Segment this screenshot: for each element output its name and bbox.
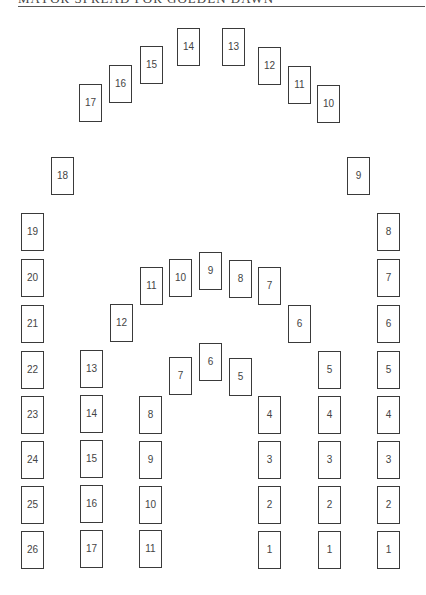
card-number-label: 1 <box>386 545 392 555</box>
card-position-inner-arch-8: 8 <box>139 396 162 434</box>
card-number-label: 12 <box>264 61 275 71</box>
card-position-outer-right-6: 6 <box>377 305 400 343</box>
card-position-middle-arch-17: 17 <box>80 530 103 568</box>
card-position-middle-arch-12: 12 <box>110 304 133 342</box>
card-position-outer-left-25: 25 <box>21 486 44 524</box>
card-position-outer-left-23: 23 <box>21 396 44 434</box>
card-position-inner-arch-6: 6 <box>199 343 222 381</box>
card-number-label: 1 <box>267 545 273 555</box>
card-number-label: 6 <box>386 319 392 329</box>
card-number-label: 5 <box>238 372 244 382</box>
card-number-label: 7 <box>178 371 184 381</box>
card-number-label: 19 <box>27 227 38 237</box>
card-position-middle-arch-5: 5 <box>318 351 341 389</box>
card-number-label: 4 <box>267 410 273 420</box>
card-position-upper-arch-17: 17 <box>79 84 102 122</box>
card-position-outer-right-5: 5 <box>377 351 400 389</box>
card-number-label: 3 <box>267 455 273 465</box>
card-number-label: 25 <box>27 500 38 510</box>
card-number-label: 4 <box>386 410 392 420</box>
card-number-label: 13 <box>228 42 239 52</box>
card-number-label: 10 <box>175 273 186 283</box>
card-position-middle-arch-14: 14 <box>80 395 103 433</box>
card-number-label: 14 <box>183 42 194 52</box>
card-number-label: 2 <box>327 500 333 510</box>
card-position-outer-left-19: 19 <box>21 213 44 251</box>
card-number-label: 2 <box>267 500 273 510</box>
card-number-label: 8 <box>238 274 244 284</box>
card-number-label: 12 <box>116 318 127 328</box>
card-position-middle-arch-6: 6 <box>288 305 311 343</box>
card-number-label: 3 <box>386 455 392 465</box>
card-position-outer-right-9: 9 <box>347 157 370 195</box>
card-number-label: 18 <box>57 171 68 181</box>
card-position-outer-right-4: 4 <box>377 396 400 434</box>
card-position-upper-arch-13: 13 <box>222 28 245 66</box>
card-position-middle-arch-2: 2 <box>318 486 341 524</box>
card-position-middle-arch-9: 9 <box>199 252 222 290</box>
card-position-inner-arch-7: 7 <box>169 357 192 395</box>
card-position-outer-right-2: 2 <box>377 486 400 524</box>
card-position-upper-arch-12: 12 <box>258 47 281 85</box>
card-number-label: 10 <box>145 500 156 510</box>
card-position-inner-arch-9: 9 <box>139 441 162 479</box>
page-header-title: MAYOR SPREAD FOR GOLDEN DAWN <box>18 0 278 5</box>
card-position-outer-left-24: 24 <box>21 441 44 479</box>
card-number-label: 9 <box>356 171 362 181</box>
card-number-label: 5 <box>386 365 392 375</box>
card-number-label: 23 <box>27 410 38 420</box>
card-number-label: 24 <box>27 455 38 465</box>
card-number-label: 5 <box>327 365 333 375</box>
card-number-label: 8 <box>386 227 392 237</box>
card-number-label: 16 <box>86 499 97 509</box>
card-position-outer-left-20: 20 <box>21 259 44 297</box>
card-position-upper-arch-14: 14 <box>177 28 200 66</box>
card-position-outer-left-21: 21 <box>21 305 44 343</box>
card-number-label: 14 <box>86 409 97 419</box>
card-number-label: 15 <box>86 454 97 464</box>
card-position-upper-arch-10: 10 <box>317 85 340 123</box>
card-position-outer-left-22: 22 <box>21 351 44 389</box>
card-number-label: 26 <box>27 545 38 555</box>
card-position-middle-arch-4: 4 <box>318 396 341 434</box>
card-position-middle-arch-7: 7 <box>258 267 281 305</box>
card-position-inner-arch-1: 1 <box>258 531 281 569</box>
card-number-label: 10 <box>323 99 334 109</box>
card-position-middle-arch-10: 10 <box>169 259 192 297</box>
card-number-label: 2 <box>386 500 392 510</box>
card-position-outer-right-7: 7 <box>377 259 400 297</box>
card-number-label: 21 <box>27 319 38 329</box>
card-number-label: 11 <box>294 80 304 90</box>
card-position-middle-arch-3: 3 <box>318 441 341 479</box>
card-number-label: 17 <box>86 544 97 554</box>
card-position-middle-arch-8: 8 <box>229 260 252 298</box>
card-number-label: 15 <box>146 60 157 70</box>
card-number-label: 13 <box>86 364 97 374</box>
card-number-label: 6 <box>297 319 303 329</box>
card-position-middle-arch-1: 1 <box>318 531 341 569</box>
card-position-inner-arch-5: 5 <box>229 358 252 396</box>
card-number-label: 11 <box>145 544 155 554</box>
header-divider <box>18 6 425 7</box>
card-position-middle-arch-15: 15 <box>80 440 103 478</box>
card-number-label: 20 <box>27 273 38 283</box>
card-position-upper-arch-11: 11 <box>288 66 311 104</box>
card-position-inner-arch-10: 10 <box>139 486 162 524</box>
card-position-outer-left-26: 26 <box>21 531 44 569</box>
card-number-label: 7 <box>267 281 273 291</box>
card-position-inner-arch-2: 2 <box>258 486 281 524</box>
card-position-upper-arch-16: 16 <box>109 65 132 103</box>
card-position-middle-arch-11: 11 <box>140 267 163 305</box>
card-number-label: 9 <box>208 266 214 276</box>
card-position-outer-left-18: 18 <box>51 157 74 195</box>
card-number-label: 7 <box>386 273 392 283</box>
card-number-label: 22 <box>27 365 38 375</box>
card-position-outer-right-3: 3 <box>377 441 400 479</box>
card-number-label: 8 <box>148 410 154 420</box>
card-number-label: 1 <box>327 545 333 555</box>
card-position-inner-arch-4: 4 <box>258 396 281 434</box>
card-number-label: 6 <box>208 357 214 367</box>
card-number-label: 17 <box>85 98 96 108</box>
card-number-label: 4 <box>327 410 333 420</box>
card-number-label: 3 <box>327 455 333 465</box>
